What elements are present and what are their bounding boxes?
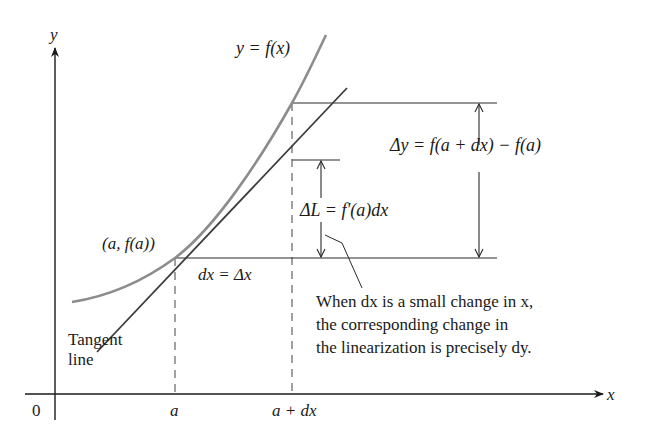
note-line-3: the linearization is precisely dy. <box>316 338 532 357</box>
curve-label: y = f(x) <box>234 38 290 59</box>
point-label: (a, f(a)) <box>102 234 155 253</box>
y-axis-label: y <box>48 25 58 44</box>
tangent-line <box>97 88 347 352</box>
note-line-1: When dx is a small change in x, <box>316 292 533 311</box>
tick-label-a-plus-dx: a + dx <box>272 401 317 420</box>
linearization-diagram: y x 0 a a + dx y = f(x) (a, f(a)) dx = Δ… <box>0 0 646 437</box>
tick-label-a: a <box>170 401 179 420</box>
function-curve <box>72 35 326 302</box>
tangent-label-line2: line <box>68 350 94 369</box>
delta-y-label: Δy = f(a + dx) − f(a) <box>389 135 541 156</box>
dx-label: dx = Δx <box>198 265 252 284</box>
delta-L-label: ΔL = f′(a)dx <box>299 200 388 221</box>
x-axis-label: x <box>606 385 615 404</box>
origin-label: 0 <box>32 401 41 420</box>
note-line-2: the corresponding change in <box>316 315 509 334</box>
note-leader-line <box>325 235 362 288</box>
tangent-label-line1: Tangent <box>68 330 123 349</box>
